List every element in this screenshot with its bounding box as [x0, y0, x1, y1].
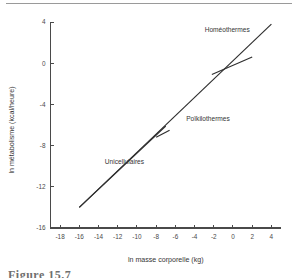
y-axis-title: ln métabolisme (kcal/heure): [8, 86, 16, 173]
data-series-group: [79, 24, 271, 207]
x-tick-label-0: 0: [231, 233, 235, 240]
series-homeothermes-segment: [212, 57, 252, 75]
figure-container: -18-16-14-12-10-8-6-4-2024 40-4-8-12-16 …: [0, 8, 298, 270]
series-unicellulaires-segment: [79, 126, 165, 207]
annotation-po-kilothermes: Poïkilothermes: [186, 115, 230, 122]
x-tick-label--18: -18: [55, 233, 65, 240]
y-tick-label--8: -8: [40, 142, 46, 149]
x-tick-label-2: 2: [250, 233, 254, 240]
x-tick-label--12: -12: [113, 233, 123, 240]
x-tick-label--10: -10: [132, 233, 142, 240]
annotation-hom-othermes: Homéothermes: [205, 26, 251, 33]
x-tick-label--8: -8: [153, 233, 159, 240]
top-divider-rule: [6, 3, 292, 4]
y-tick-label--4: -4: [40, 101, 46, 108]
x-tick-label--16: -16: [75, 233, 85, 240]
metabolism-scaling-chart: -18-16-14-12-10-8-6-4-2024 40-4-8-12-16 …: [0, 8, 298, 270]
x-tick-label--14: -14: [94, 233, 104, 240]
x-tick-label--6: -6: [173, 233, 179, 240]
x-tick-label-4: 4: [270, 233, 274, 240]
y-tick-label--12: -12: [36, 183, 46, 190]
x-tick-label--2: -2: [211, 233, 217, 240]
y-axis-tick-labels: 40-4-8-12-16: [36, 18, 46, 231]
y-tick-label-4: 4: [42, 18, 46, 25]
annotation-unicellulaires: Unicellulaires: [105, 158, 145, 165]
x-axis-tick-labels: -18-16-14-12-10-8-6-4-2024: [55, 233, 273, 240]
figure-caption: Figure 15.7: [8, 268, 188, 278]
x-tick-label--4: -4: [192, 233, 198, 240]
x-axis-title: ln masse corporelle (kg): [128, 256, 204, 264]
y-tick-label--16: -16: [36, 224, 46, 231]
figure-page: -18-16-14-12-10-8-6-4-2024 40-4-8-12-16 …: [0, 0, 298, 278]
chart-annotations: HoméothermesPoïkilothermesUnicellulaires: [105, 26, 251, 165]
y-tick-label-0: 0: [42, 60, 46, 67]
